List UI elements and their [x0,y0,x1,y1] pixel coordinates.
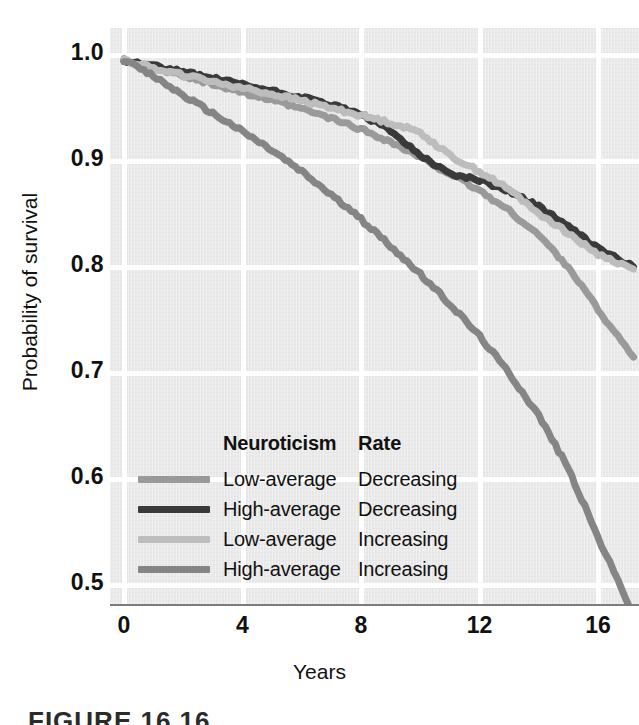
legend-swatch-2 [138,536,210,543]
y-tick-label-0.8: 0.8 [40,251,104,278]
legend-swatch-1 [138,506,210,513]
y-tick-label-0.7: 0.7 [40,357,104,384]
x-tick-label-12: 12 [467,612,493,639]
legend-header-neuroticism: Neuroticism [223,432,358,455]
x-tick-label-4: 4 [236,612,249,639]
legend-rate-label: Increasing [358,558,448,581]
legend-rate-label: Decreasing [358,468,457,491]
y-tick-label-0.6: 0.6 [40,463,104,490]
legend-row: High-averageIncreasing [138,554,468,584]
legend-rate-label: Decreasing [358,498,457,521]
legend-neuroticism-label: Low-average [223,528,358,551]
legend-neuroticism-label: High-average [223,498,358,521]
legend-rows: Low-averageDecreasingHigh-averageDecreas… [138,464,468,584]
x-tick-label-16: 16 [585,612,611,639]
figure-root: 1.00.90.80.70.60.5 0481216 Years Probabi… [0,0,639,725]
legend-swatch-3 [138,566,210,573]
legend-header-rate: Rate [358,432,401,455]
legend-rate-label: Increasing [358,528,448,551]
legend-neuroticism-label: Low-average [223,468,358,491]
legend-neuroticism-label: High-average [223,558,358,581]
y-axis-title: Probability of survival [18,142,42,442]
legend-row: High-averageDecreasing [138,494,468,524]
legend-row: Low-averageIncreasing [138,524,468,554]
x-tick-label-0: 0 [118,612,131,639]
legend: Neuroticism Rate Low-averageDecreasingHi… [138,432,468,584]
y-tick-label-1.0: 1.0 [40,39,104,66]
x-axis-line [110,604,639,606]
figure-caption: FIGURE 16.16 [28,706,328,725]
legend-swatch-0 [138,476,210,483]
x-tick-label-8: 8 [355,612,368,639]
legend-header: Neuroticism Rate [138,432,468,455]
x-axis-tick-labels: 0481216 [0,612,639,646]
y-tick-label-0.5: 0.5 [40,569,104,596]
legend-row: Low-averageDecreasing [138,464,468,494]
x-axis-title: Years [0,660,639,684]
y-tick-label-0.9: 0.9 [40,145,104,172]
